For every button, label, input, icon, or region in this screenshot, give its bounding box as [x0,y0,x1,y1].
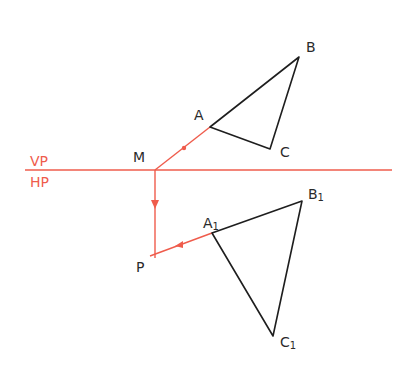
arrow-down-icon [151,200,159,209]
projection-diagram: VP HP M P A B C A1 B1 C1 [0,0,402,380]
label-c: C [280,144,290,160]
triangle-a1b1c1 [212,201,302,336]
arrow-dot-ma [182,146,186,150]
label-c1: C1 [280,334,296,351]
label-p: P [136,259,144,275]
label-m: M [133,149,145,165]
label-vp: VP [30,153,48,169]
label-b: B [306,39,316,55]
triangle-abc [210,57,299,149]
label-b1: B1 [308,186,324,203]
label-a1: A1 [203,215,219,232]
label-a: A [194,107,204,123]
label-hp: HP [30,174,49,190]
